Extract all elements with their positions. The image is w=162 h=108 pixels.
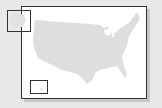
contiguous-us-shape bbox=[33, 12, 140, 84]
alaska-inset-frame bbox=[7, 10, 31, 32]
hawaii-inset-frame bbox=[30, 80, 48, 94]
